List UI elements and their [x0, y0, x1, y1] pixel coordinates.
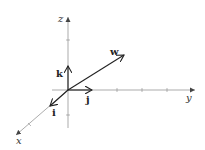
- i-vector: [50, 90, 68, 106]
- z-axis-label: z: [57, 13, 64, 24]
- coordinate-diagram: z y x k j i w: [0, 0, 205, 150]
- y-axis-label: y: [185, 92, 192, 103]
- x-axis-label: x: [16, 135, 22, 146]
- j-label: j: [85, 94, 90, 105]
- k-label: k: [56, 68, 64, 79]
- w-label: w: [109, 46, 119, 57]
- i-label: i: [52, 107, 56, 118]
- w-vector: [68, 55, 124, 90]
